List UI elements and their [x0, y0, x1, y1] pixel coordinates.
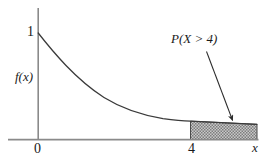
y-axis-value-label-one: 1	[27, 25, 34, 39]
probability-density-figure: 1 f(x) 0 4 x P(X > 4)	[0, 0, 269, 165]
annotation-arrow	[207, 52, 233, 121]
probability-annotation-label: P(X > 4)	[171, 32, 217, 45]
x-axis-name-label: x	[252, 141, 258, 154]
y-axis-function-label: f(x)	[15, 70, 33, 83]
density-curve	[38, 33, 257, 124]
x-axis-tick-label-zero: 0	[34, 142, 41, 156]
x-axis-tick-label-four: 4	[188, 142, 195, 156]
